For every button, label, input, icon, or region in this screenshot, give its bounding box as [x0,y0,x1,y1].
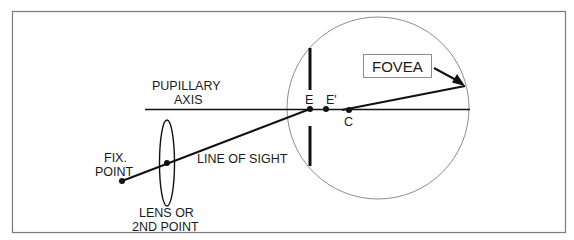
lens-label-2: 2ND POINT [132,220,199,234]
lens-label-1: LENS OR [139,206,194,220]
fix-point-label-1: FIX. [104,151,127,165]
fovea-label: FOVEA [372,58,423,75]
point-c-label: C [344,115,353,129]
diagram-frame [13,12,566,233]
line-of-sight-inner [342,86,465,110]
point-e-prime-label: E' [326,93,337,107]
point-c-dot [346,107,352,113]
eyeball-circle [287,17,469,199]
pupillary-axis-label-2: AXIS [174,93,203,107]
line-of-sight-label: LINE OF SIGHT [197,152,288,166]
line-of-sight-outer [122,109,310,181]
point-e-label: E [305,93,313,107]
fix-point-label-2: POINT [95,165,134,179]
eye-axes-diagram: FOVEA PUPILLARY AXIS FIX. POINT LINE OF … [0,0,574,240]
lens-point-dot [164,160,170,166]
pupillary-axis-label-1: PUPILLARY [152,79,221,93]
